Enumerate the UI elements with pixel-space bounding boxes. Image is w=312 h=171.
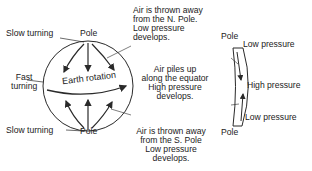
equator-annotation: Air piles up along the equator High pres… [136, 65, 214, 101]
cross-section-top-pole: Pole [221, 32, 238, 41]
south-pole-label: Pole [80, 127, 97, 136]
south-annotation: Air is thrown away from the S. Pole Low … [124, 127, 218, 163]
south-slow-turning-label: Slow turning [6, 126, 53, 135]
cross-section-top-label: Low pressure [243, 40, 295, 49]
north-annotation: Air is thrown away from the N. Pole. Low… [133, 6, 203, 42]
cross-section-middle-label: High pressure [247, 81, 301, 90]
fast-turning-label: Fast turning [11, 73, 37, 91]
north-pole-label: Pole [80, 29, 97, 38]
cross-section-bottom-pole: Pole [221, 128, 238, 137]
north-slow-turning-label: Slow turning [6, 29, 53, 38]
cross-section-bottom-label: Low pressure [245, 113, 297, 122]
